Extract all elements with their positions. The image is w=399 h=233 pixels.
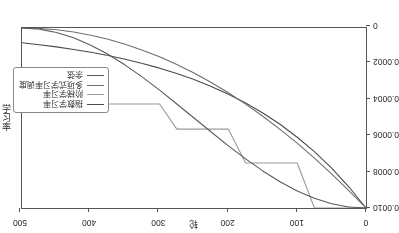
x-axis-tick-label: 400 (82, 218, 96, 228)
plot-area: 010020030040050000.00020.00040.00060.000… (21, 27, 367, 209)
x-axis-tick-label: 200 (221, 218, 235, 228)
legend-item-label: 指数学习率 (43, 99, 83, 110)
legend-item-label: 多项式学习率调度 (19, 80, 83, 91)
y-axis-tick-label: 0.0010 (373, 203, 399, 213)
y-axis-tick (366, 134, 370, 135)
y-axis-tick (366, 25, 370, 26)
legend-line-swatch (87, 85, 104, 86)
chart-legend: 指数学习率阶梯学习率多项式学习率调度余弦 (13, 67, 109, 113)
x-axis-tick-label: 0 (364, 218, 369, 228)
x-axis-tick-label: 300 (151, 218, 165, 228)
y-axis-tick-label: 0 (373, 21, 378, 31)
y-axis-tick-label: 0.0008 (373, 167, 399, 177)
y-axis-tick (366, 98, 370, 99)
y-axis-tick-label: 0.0004 (373, 94, 399, 104)
legend-line-swatch (87, 104, 104, 105)
x-axis-tick (296, 208, 297, 212)
x-axis-tick (365, 208, 366, 212)
legend-item[interactable]: 阶梯学习率 (19, 90, 104, 100)
legend-item-label: 阶梯学习率 (43, 89, 83, 100)
legend-item[interactable]: 多项式学习率调度 (19, 81, 104, 91)
x-axis-tick (19, 208, 20, 212)
legend-line-swatch (87, 94, 104, 95)
legend-item[interactable]: 指数学习率 (19, 100, 104, 110)
legend-line-swatch (87, 75, 104, 76)
y-axis-tick-label: 0.0002 (373, 57, 399, 67)
legend-item-label: 余弦 (67, 70, 83, 81)
x-axis-tick (88, 208, 89, 212)
y-axis-tick (366, 207, 370, 208)
y-axis-tick-label: 0.0006 (373, 130, 399, 140)
x-axis-label: 轮 (21, 218, 367, 231)
x-axis-tick (157, 208, 158, 212)
y-axis-tick (366, 61, 370, 62)
x-axis-tick (227, 208, 228, 212)
x-axis-tick-label: 500 (13, 218, 27, 228)
x-axis-tick-label: 100 (290, 218, 304, 228)
curves-layer (22, 28, 366, 208)
series-line (22, 28, 366, 208)
y-axis-tick (366, 171, 370, 172)
